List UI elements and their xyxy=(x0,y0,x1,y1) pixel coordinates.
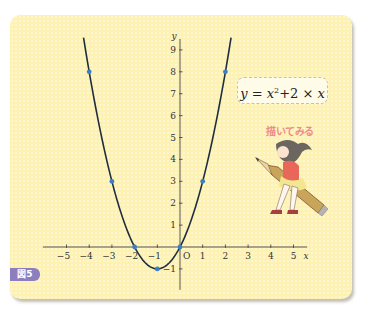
figure-number-badge: 図5 xyxy=(10,268,40,281)
girl-riding-pencil-illustration xyxy=(0,0,365,311)
